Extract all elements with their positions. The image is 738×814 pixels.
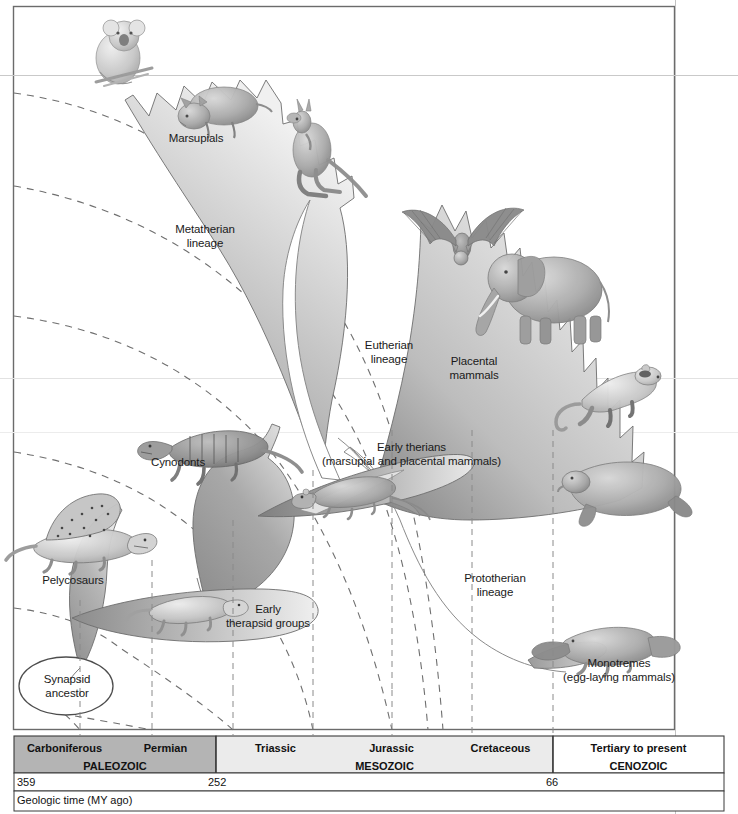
manatee-illustration — [558, 462, 692, 526]
clade-label-cynodonts: Cynodonts — [139, 456, 217, 470]
clade-label-pelycosaurs: Pelycosaurs — [32, 574, 114, 588]
koala-illustration — [96, 20, 152, 86]
geologic-time-caption: Geologic time (MY ago) — [17, 794, 132, 806]
clade-label-synapsid-ancestor: Synapsid ancestor — [31, 673, 103, 700]
clade-label-metatherian-lineage: Metatherian lineage — [160, 223, 250, 250]
era-label-paleozoic: PALEOZOIC — [14, 760, 216, 772]
clade-label-eutherian-lineage: Eutherian lineage — [348, 339, 430, 366]
era-label-cenozoic: CENOZOIC — [553, 760, 724, 772]
clade-label-early-therapsid-groups: Early therapsid groups — [219, 603, 317, 630]
boundary-value-66: 66 — [546, 776, 558, 788]
period-label-jurassic: Jurassic — [335, 742, 448, 754]
clade-label-marsupials: Marsupials — [161, 132, 231, 146]
period-label-cretaceous: Cretaceous — [448, 742, 553, 754]
clade-label-early-therians: Early therians (marsupial and placental … — [311, 441, 512, 468]
era-label-mesozoic: MESOZOIC — [216, 760, 553, 772]
pelycosaur-illustration — [6, 494, 157, 574]
period-label-permian: Permian — [115, 742, 216, 754]
boundary-value-252: 252 — [208, 776, 226, 788]
period-label-carboniferous: Carboniferous — [14, 742, 115, 754]
evolution-tree-diagram — [0, 0, 738, 814]
period-label-tertiary-to-present: Tertiary to present — [553, 742, 724, 754]
period-label-triassic: Triassic — [216, 742, 335, 754]
clade-label-placental-mammals: Placental mammals — [434, 355, 514, 382]
boundary-value-359: 359 — [17, 776, 35, 788]
clade-label-monotremes: Monotremes (egg-laying mammals) — [551, 657, 687, 684]
boundary-value-row — [14, 773, 724, 791]
clade-label-prototherian-lineage: Prototherian lineage — [452, 572, 538, 599]
figure-canvas: Marsupials Metatherian lineage Eutherian… — [0, 0, 738, 814]
